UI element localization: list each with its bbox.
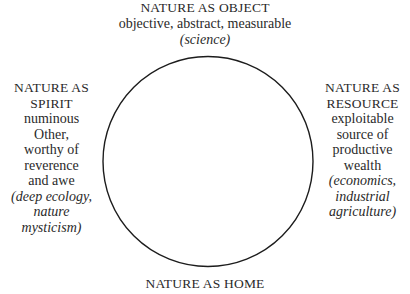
quadrant-left-heading-line-2: SPIRIT: [0, 96, 103, 112]
quadrant-left: NATURE AS SPIRIT numinous Other, worthy …: [0, 80, 103, 235]
quadrant-right-heading-line-1: NATURE AS: [315, 80, 410, 96]
quadrant-left-example-2: nature: [0, 204, 103, 220]
quadrant-right-heading-line-2: RESOURCE: [315, 96, 410, 112]
quadrant-top: NATURE AS OBJECT objective, abstract, me…: [55, 0, 355, 48]
quadrant-left-example-3: mysticism): [0, 220, 103, 236]
quadrant-top-example-1: (science): [55, 32, 355, 48]
quadrant-left-line-2: Other,: [0, 127, 103, 143]
quadrant-left-line-4: reverence: [0, 158, 103, 174]
quadrant-bottom-heading: NATURE AS HOME: [55, 276, 355, 292]
quadrant-left-line-3: worthy of: [0, 142, 103, 158]
quadrant-top-heading: NATURE AS OBJECT: [55, 0, 355, 16]
quadrant-right-line-4: wealth: [315, 158, 410, 174]
quadrant-right-line-3: productive: [315, 142, 410, 158]
quadrant-right-example-1: (economics,: [315, 173, 410, 189]
quadrant-left-heading-line-1: NATURE AS: [0, 80, 103, 96]
quadrant-right-example-3: agriculture): [315, 204, 410, 220]
quadrant-left-line-5: and awe: [0, 173, 103, 189]
quadrant-right: NATURE AS RESOURCE exploitable source of…: [315, 80, 410, 220]
quadrant-right-example-2: industrial: [315, 189, 410, 205]
quadrant-left-line-1: numinous: [0, 111, 103, 127]
quadrant-top-line-1: objective, abstract, measurable: [55, 16, 355, 32]
quadrant-left-example-1: (deep ecology,: [0, 189, 103, 205]
nature-orientations-diagram: NATURE AS OBJECT objective, abstract, me…: [0, 0, 410, 294]
quadrant-right-line-1: exploitable: [315, 111, 410, 127]
quadrant-right-line-2: source of: [315, 127, 410, 143]
central-circle: [103, 57, 313, 267]
quadrant-bottom: NATURE AS HOME: [55, 276, 355, 292]
